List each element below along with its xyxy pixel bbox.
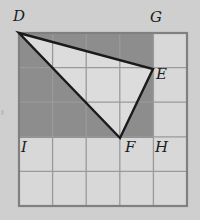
figure-canvas <box>0 0 200 220</box>
vertex-label-h: H <box>155 140 168 155</box>
vertex-label-i: I <box>21 140 27 155</box>
vertex-label-e: E <box>156 67 167 82</box>
scan-artifact-speck <box>1 110 4 115</box>
geometry-figure: D G E I F H <box>0 0 200 220</box>
vertex-label-d: D <box>13 9 25 24</box>
vertex-label-f: F <box>125 140 135 155</box>
vertex-label-g: G <box>150 10 162 25</box>
